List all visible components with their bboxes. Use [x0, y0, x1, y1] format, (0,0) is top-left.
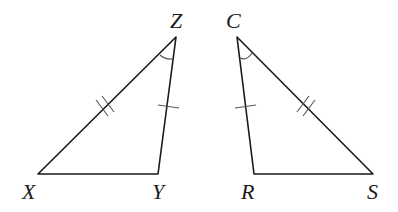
angle-arc-z: [160, 55, 173, 59]
single-tick-mark-yz: [158, 105, 179, 108]
vertex-label-c: C: [226, 8, 241, 33]
vertex-label-r: R: [240, 179, 255, 204]
vertex-label-y: Y: [152, 179, 167, 204]
triangle-xyz-outline: [38, 37, 176, 174]
vertex-label-z: Z: [170, 8, 183, 33]
congruent-triangles-diagram: X Y Z C R S: [0, 0, 398, 212]
triangle-crs-outline: [237, 37, 373, 174]
triangle-crs: C R S: [226, 8, 378, 204]
angle-arc-c: [240, 53, 252, 59]
vertex-label-s: S: [367, 179, 378, 204]
triangle-xyz: X Y Z: [21, 8, 183, 204]
vertex-label-x: X: [21, 179, 37, 204]
